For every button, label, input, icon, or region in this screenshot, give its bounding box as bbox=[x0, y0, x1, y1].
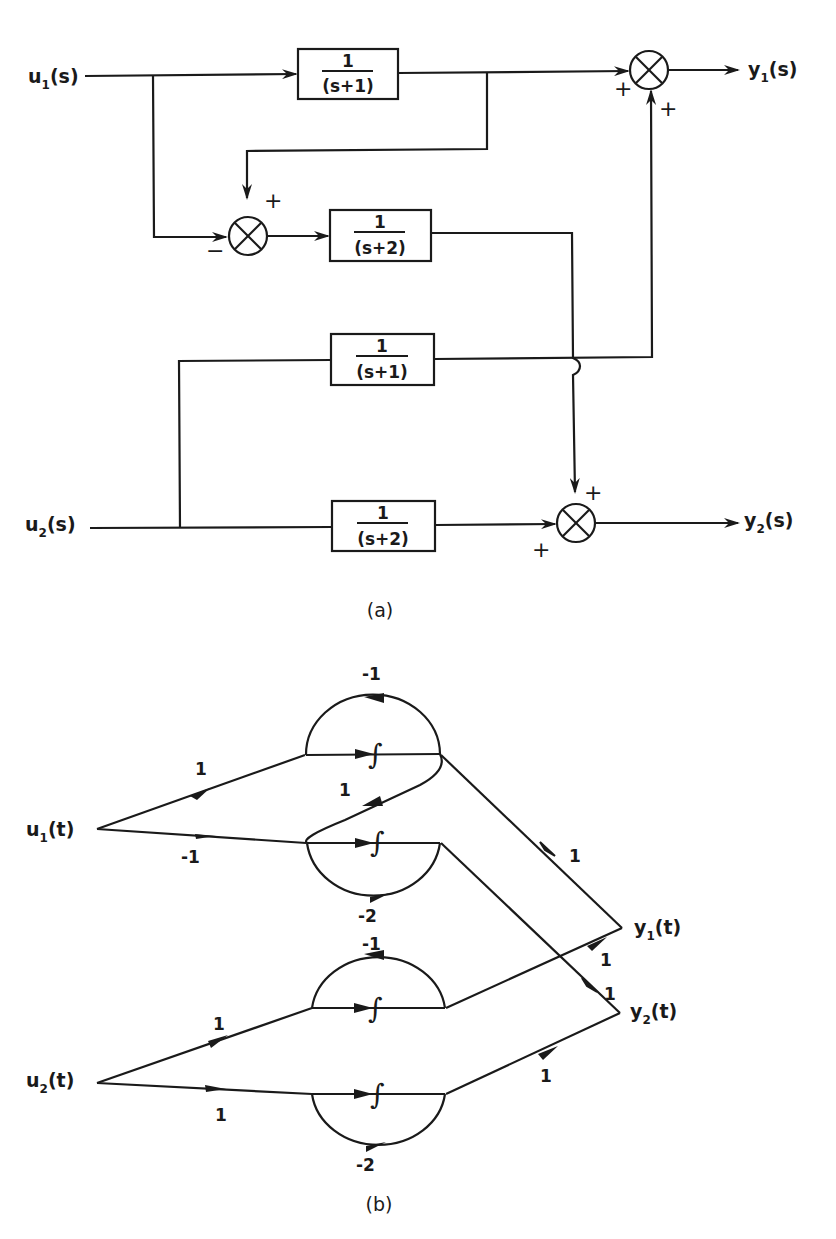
svg-text:1: 1 bbox=[377, 503, 389, 523]
transfer-block-3: 1 (s+1) bbox=[331, 334, 434, 385]
svg-text:(s+1): (s+1) bbox=[322, 76, 374, 96]
caption-a: (a) bbox=[367, 599, 393, 621]
svg-text:-1: -1 bbox=[362, 934, 381, 954]
signal-line bbox=[85, 74, 296, 76]
transfer-block-2: 1 (s+2) bbox=[330, 210, 431, 261]
summing-junction-1: + + bbox=[614, 51, 677, 121]
transfer-block-1: 1 (s+1) bbox=[298, 49, 398, 99]
signal-flow-graph-b: u1(t) 1 -1 ∫ -1 1 ∫ -2 1 bbox=[26, 664, 681, 1215]
output-y2t-label: y2(t) bbox=[630, 1000, 677, 1027]
output-y2s-label: y2(s) bbox=[744, 509, 793, 536]
svg-text:−: − bbox=[206, 238, 224, 263]
svg-text:1: 1 bbox=[376, 336, 388, 356]
input-u2t-label: u2(t) bbox=[26, 1069, 74, 1096]
svg-text:1: 1 bbox=[195, 759, 207, 779]
svg-text:1: 1 bbox=[374, 212, 386, 232]
output-y1s-label: y1(s) bbox=[748, 58, 797, 85]
svg-text:(s+2): (s+2) bbox=[354, 238, 406, 258]
diagram-canvas: u1(s) 1 (s+1) + + y1(s) bbox=[0, 0, 836, 1239]
svg-text:+: + bbox=[614, 76, 632, 101]
svg-text:1: 1 bbox=[339, 780, 351, 800]
svg-text:∫: ∫ bbox=[370, 1078, 385, 1111]
input-u1s-label: u1(s) bbox=[28, 65, 79, 92]
svg-text:+: + bbox=[532, 537, 550, 562]
svg-text:+: + bbox=[584, 480, 602, 505]
input-u1t-label: u1(t) bbox=[26, 818, 74, 845]
svg-text:1: 1 bbox=[569, 846, 581, 866]
summing-junction-3: + + bbox=[532, 480, 602, 562]
svg-text:∫: ∫ bbox=[370, 826, 385, 859]
svg-text:∫: ∫ bbox=[368, 992, 383, 1025]
svg-text:1: 1 bbox=[600, 950, 612, 970]
svg-text:(s+1): (s+1) bbox=[356, 362, 408, 382]
svg-text:-2: -2 bbox=[358, 906, 377, 926]
svg-text:-1: -1 bbox=[181, 847, 200, 867]
svg-text:1: 1 bbox=[540, 1066, 552, 1086]
output-y1t-label: y1(t) bbox=[634, 916, 681, 943]
input-u2s-label: u2(s) bbox=[25, 513, 76, 540]
svg-text:-1: -1 bbox=[362, 664, 381, 684]
svg-text:(s+2): (s+2) bbox=[357, 529, 409, 549]
svg-text:-2: -2 bbox=[356, 1155, 375, 1175]
svg-text:1: 1 bbox=[342, 51, 354, 71]
svg-text:1: 1 bbox=[215, 1105, 227, 1125]
transfer-block-4: 1 (s+2) bbox=[332, 501, 435, 551]
summing-junction-2: + − bbox=[206, 188, 282, 263]
caption-b: (b) bbox=[366, 1193, 393, 1215]
svg-text:1: 1 bbox=[604, 984, 616, 1004]
svg-text:∫: ∫ bbox=[368, 738, 383, 771]
svg-text:+: + bbox=[659, 96, 677, 121]
block-diagram-a: u1(s) 1 (s+1) + + y1(s) bbox=[25, 49, 797, 621]
svg-text:+: + bbox=[264, 188, 282, 213]
svg-text:1: 1 bbox=[213, 1014, 225, 1034]
